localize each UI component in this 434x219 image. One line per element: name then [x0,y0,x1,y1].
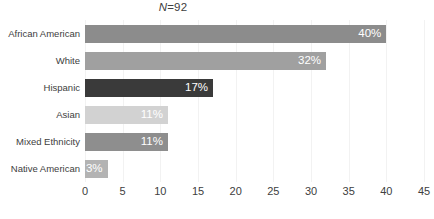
category-label: Native American [0,164,80,174]
bar-value-label: 11% [141,109,168,121]
category-label: Mixed Ethnicity [0,137,80,147]
category-label: African American [0,29,80,39]
bar-value-label: 40% [358,28,386,40]
x-tick-label: 45 [418,186,430,197]
bar[interactable]: 11% [85,106,168,124]
x-tick-label: 5 [120,186,126,197]
plot-area: 40%32%17%11%11%3% [85,20,424,182]
bar-value-label: 32% [298,55,326,67]
x-tick-label: 40 [380,186,392,197]
bar-chart: N=92 African AmericanWhiteHispanicAsianM… [0,0,434,219]
bar-row[interactable]: 32% [85,52,424,70]
category-label: Hispanic [0,83,80,93]
bar[interactable]: 3% [85,160,108,178]
bar-value-label: 17% [185,82,213,94]
bar-value-label: 11% [141,136,168,148]
bar-value-label: 3% [86,163,108,175]
bar-row[interactable]: 17% [85,79,424,97]
x-tick-label: 20 [230,186,242,197]
x-tick-label: 25 [267,186,279,197]
bar[interactable]: 32% [85,52,326,70]
bar-row[interactable]: 11% [85,133,424,151]
x-tick-label: 15 [192,186,204,197]
gridline [424,20,425,182]
x-tick-label: 30 [305,186,317,197]
sample-size-value: =92 [167,1,187,13]
x-tick-label: 10 [154,186,166,197]
bar[interactable]: 17% [85,79,213,97]
bar-series: 40%32%17%11%11%3% [85,20,424,182]
x-axis-tick-labels: 051015202530354045 [85,186,424,206]
category-label: Asian [0,110,80,120]
bar-row[interactable]: 40% [85,25,424,43]
bar-row[interactable]: 11% [85,106,424,124]
bar[interactable]: 11% [85,133,168,151]
category-axis-labels: African AmericanWhiteHispanicAsianMixed … [0,20,80,182]
x-tick-label: 0 [82,186,88,197]
bar-row[interactable]: 3% [85,160,424,178]
sample-size-annotation: N=92 [0,1,434,13]
sample-size-symbol: N [159,1,168,13]
x-tick-label: 35 [343,186,355,197]
bar[interactable]: 40% [85,25,386,43]
category-label: White [0,56,80,66]
